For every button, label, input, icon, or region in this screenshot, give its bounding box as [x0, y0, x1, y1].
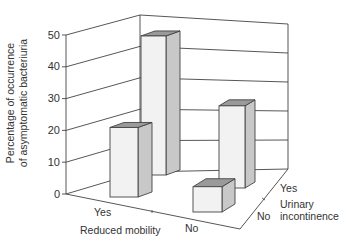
z-category-no: No — [257, 210, 270, 222]
y-tick-10: 10 — [40, 156, 60, 168]
y-tick-40: 40 — [40, 60, 60, 72]
bar-side-face — [166, 31, 180, 175]
y-tick-30: 30 — [40, 92, 60, 104]
gridline-right-50 — [140, 15, 288, 24]
y-tick-50: 50 — [40, 29, 60, 41]
gridline-left-30 — [66, 78, 140, 99]
z-axis-title-line-1: Urinary — [280, 198, 314, 210]
y-tick-20: 20 — [40, 124, 60, 136]
z-category-yes: Yes — [280, 182, 297, 194]
y-tick-0: 0 — [40, 188, 60, 200]
x-axis-title: Reduced mobility — [80, 224, 161, 236]
y-axis-title-line-1: Percentage of occurrence — [4, 18, 17, 188]
chart-bars — [110, 31, 255, 212]
y-axis-title: Percentage of occurrence of asymptomatic… — [4, 18, 30, 188]
x-category-no: No — [185, 222, 198, 234]
bar-side-face — [245, 100, 255, 188]
bar-front-face — [193, 187, 222, 212]
y-axis-title-line-2: of asymptomatic bacteriuria — [17, 18, 30, 188]
bar-front-face — [219, 106, 245, 188]
bar-mobility-yes-incontinence-no — [110, 122, 152, 197]
bar-front-face — [110, 127, 138, 197]
bar-side-face — [138, 122, 152, 197]
gridline-left-50 — [66, 15, 140, 35]
gridline-left-40 — [66, 46, 140, 66]
x-category-yes: Yes — [94, 206, 111, 218]
z-axis-title-line-2: incontinence — [280, 210, 339, 222]
bar-mobility-no-incontinence-no — [193, 179, 235, 212]
bar-mobility-no-incontinence-yes — [219, 100, 255, 188]
